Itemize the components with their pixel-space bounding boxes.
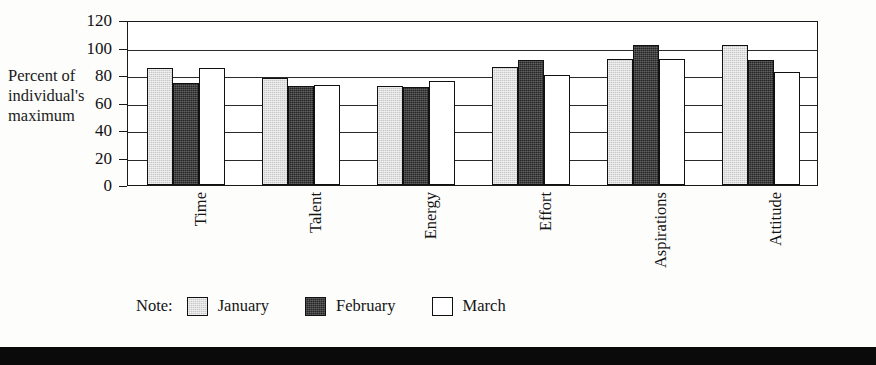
bar [147,68,173,185]
legend-label: March [463,296,506,316]
x-axis-category-label: Attitude [768,192,785,246]
x-axis-category-label: Time [193,192,210,226]
y-tick-label: 100 [66,40,112,57]
bar-group [492,22,570,185]
bar [377,86,403,185]
x-axis-category-label: Energy [423,192,440,239]
gridline [128,160,817,161]
gridline [128,105,817,106]
chart-legend: Note: JanuaryFebruaryMarch [136,295,542,317]
legend-item: January [187,296,269,316]
legend-note-label: Note: [136,296,173,316]
bar [518,60,544,185]
bar-chart-figure: Percent of individual's maximum 02040608… [0,0,876,365]
bar [722,45,748,185]
y-tick-label: 20 [66,150,112,167]
gridline [128,77,817,78]
y-tick-mark [119,159,127,160]
footer-band [0,347,876,365]
bar [492,67,518,185]
y-tick-label: 120 [66,12,112,29]
legend-item: March [432,296,506,316]
x-axis-category-label: Talent [308,192,325,233]
y-tick-mark [119,21,127,22]
bar [748,60,774,185]
legend-swatch [187,297,208,316]
bar [314,85,340,185]
legend-swatch [305,297,326,316]
y-tick-mark [119,131,127,132]
y-tick-mark [119,104,127,105]
y-tick-mark [119,49,127,50]
legend-label: February [336,296,396,316]
bar [262,78,288,185]
x-axis-category-label: Aspirations [653,192,670,268]
bar [607,59,633,186]
bar [659,59,685,186]
legend-entries: JanuaryFebruaryMarch [187,296,542,316]
bar-group [147,22,225,185]
bar [429,81,455,186]
bar [774,72,800,185]
y-tick-mark [119,186,127,187]
bar-group [377,22,455,185]
bar [199,68,225,185]
bar-group [607,22,685,185]
gridline [128,132,817,133]
plot-area [127,21,818,186]
bar [403,87,429,185]
bar-group [262,22,340,185]
legend-label: January [218,296,269,316]
bar [173,83,199,185]
y-tick-label: 40 [66,122,112,139]
y-tick-label: 0 [66,177,112,194]
bar [544,75,570,185]
legend-item: February [305,296,396,316]
legend-swatch [432,297,453,316]
bar-group [722,22,800,185]
y-tick-label: 80 [66,67,112,84]
bar [288,86,314,185]
gridline [128,50,817,51]
y-tick-label: 60 [66,95,112,112]
x-axis-category-label: Effort [538,192,555,231]
bar [633,45,659,185]
y-tick-mark [119,76,127,77]
